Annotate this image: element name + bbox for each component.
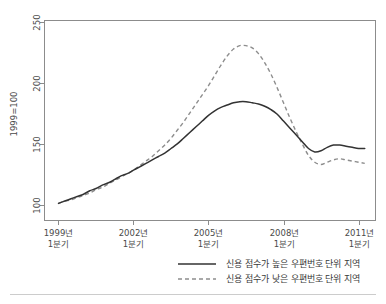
x-tick-label-quarter: 1분기	[349, 239, 370, 249]
x-tick-label-quarter: 1분기	[198, 239, 219, 249]
y-tick-label: 150	[32, 136, 42, 152]
y-tick-label: 100	[32, 197, 42, 213]
x-tick-label-quarter: 1분기	[48, 239, 69, 249]
y-tick-label: 250	[32, 14, 42, 30]
x-tick-label-year: 2005년	[194, 228, 224, 238]
y-axis-title: 1999=100	[9, 92, 19, 137]
x-tick-label-year: 2008년	[270, 228, 300, 238]
x-tick-label-year: 2011년	[345, 228, 375, 238]
line-chart-figure: 250 200 150 100 1999=100 1999년 1분기 2002년…	[0, 0, 386, 304]
x-tick-label-year: 2002년	[119, 228, 149, 238]
x-tick-label-quarter: 1분기	[274, 239, 295, 249]
legend-label-high-credit-score: 신용 점수가 높은 우편번호 단위 지역	[226, 258, 360, 269]
x-tick-label-year: 1999년	[44, 228, 74, 238]
x-tick-label-quarter: 1분기	[123, 239, 144, 249]
y-tick-label: 200	[32, 75, 42, 91]
legend-label-low-credit-score: 신용 점수가 낮은 우편번호 단위 지역	[226, 273, 360, 284]
